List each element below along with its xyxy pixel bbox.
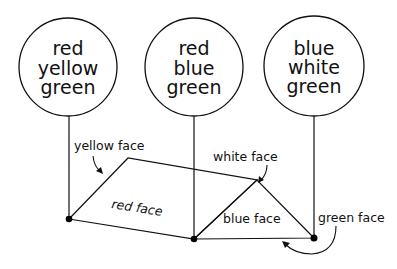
vertex-dot-2 bbox=[191, 236, 198, 243]
blue-face-label: blue face bbox=[223, 211, 281, 226]
white-face-label: white face bbox=[213, 149, 278, 164]
cube-faces-diagram: red yellow green red blue green blue whi… bbox=[0, 0, 397, 269]
white-face-arrow-icon bbox=[258, 165, 267, 183]
vertex-dot-3 bbox=[311, 235, 318, 242]
vertex-2-line-3: green bbox=[167, 76, 222, 98]
vertex-2-line-1: red bbox=[178, 37, 209, 59]
green-face-arrow-icon bbox=[282, 226, 336, 254]
vertex-3-line-3: green bbox=[287, 75, 342, 97]
green-face-label: green face bbox=[318, 210, 385, 225]
vertex-circle-3: blue white green bbox=[264, 16, 364, 116]
blue-face-outline bbox=[194, 180, 314, 239]
red-face-label: red face bbox=[111, 196, 164, 219]
vertex-circle-2: red blue green bbox=[145, 18, 243, 116]
vertex-1-line-3: green bbox=[41, 76, 96, 98]
yellow-face-label: yellow face bbox=[74, 138, 145, 153]
vertex-dot-1 bbox=[66, 216, 73, 223]
yellow-face-arrow-icon bbox=[93, 156, 103, 174]
vertex-circle-1: red yellow green bbox=[19, 18, 117, 116]
vertex-1-line-1: red bbox=[52, 37, 83, 59]
